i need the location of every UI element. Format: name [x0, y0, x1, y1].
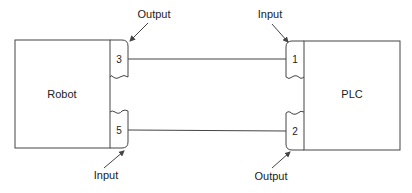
arrow-icon	[104, 151, 124, 168]
svg-text:Output: Output	[254, 170, 287, 182]
terminal-number: 2	[292, 126, 298, 137]
svg-text:Output: Output	[137, 8, 170, 20]
arrow-icon	[272, 24, 288, 42]
plc-label: PLC	[341, 88, 362, 100]
plc-terminal-2: 2	[286, 111, 304, 150]
robot-label: Robot	[47, 88, 76, 100]
robot-block: Robot	[15, 40, 110, 148]
svg-text:Input: Input	[258, 8, 282, 20]
arrow-icon	[130, 23, 148, 41]
svg-text:Input: Input	[94, 169, 118, 181]
robot-plc-wiring-diagram: Robot 3 5 PLC 1 2 Output Input Input	[0, 0, 412, 193]
callout-robot-input: Input	[94, 151, 124, 181]
robot-terminal-3: 3	[110, 40, 128, 78]
callout-plc-input: Input	[258, 8, 288, 42]
terminal-number: 1	[292, 54, 298, 65]
arrow-icon	[272, 152, 290, 168]
plc-terminal-1: 1	[286, 41, 304, 79]
robot-terminal-5: 5	[110, 110, 128, 148]
callout-plc-output: Output	[254, 152, 290, 182]
wire-5-to-2	[128, 130, 286, 131]
terminal-number: 3	[116, 54, 122, 65]
callout-robot-output: Output	[130, 8, 171, 41]
terminal-number: 5	[116, 125, 122, 136]
plc-block: PLC	[304, 41, 400, 150]
